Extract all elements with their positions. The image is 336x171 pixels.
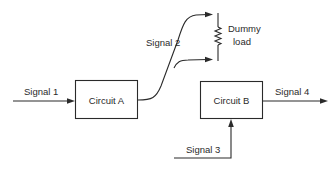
signal-2-label: Signal 2 xyxy=(146,37,180,48)
signal-2-branch-line xyxy=(174,60,208,69)
signal-3-connection: Signal 3 xyxy=(174,119,234,158)
signal-4-label: Signal 4 xyxy=(275,86,309,97)
signal-3-label: Signal 3 xyxy=(186,144,220,155)
signal-2-lower-arrowhead-icon xyxy=(205,57,213,63)
resistor-icon xyxy=(215,13,221,61)
dummy-load-label-line2: load xyxy=(233,36,251,47)
signal-3-arrowhead-icon xyxy=(228,119,234,127)
signal-1-arrowhead-icon xyxy=(67,98,75,104)
signal-4-arrowhead-icon xyxy=(320,98,328,104)
circuit-b-block: Circuit B xyxy=(201,82,263,119)
signal-2-line xyxy=(138,15,208,101)
circuit-a-label: Circuit A xyxy=(89,95,125,106)
dummy-load: Dummy load xyxy=(215,13,261,61)
signal-1-label: Signal 1 xyxy=(24,86,58,97)
dummy-load-label-line1: Dummy xyxy=(228,23,261,34)
block-diagram: Signal 1 Circuit A Signal 2 Dummy load C… xyxy=(0,0,336,171)
circuit-a-block: Circuit A xyxy=(76,81,138,119)
circuit-b-label: Circuit B xyxy=(214,95,250,106)
signal-1-connection: Signal 1 xyxy=(13,86,75,104)
signal-2-upper-arrowhead-icon xyxy=(205,12,213,18)
signal-4-connection: Signal 4 xyxy=(263,86,328,104)
